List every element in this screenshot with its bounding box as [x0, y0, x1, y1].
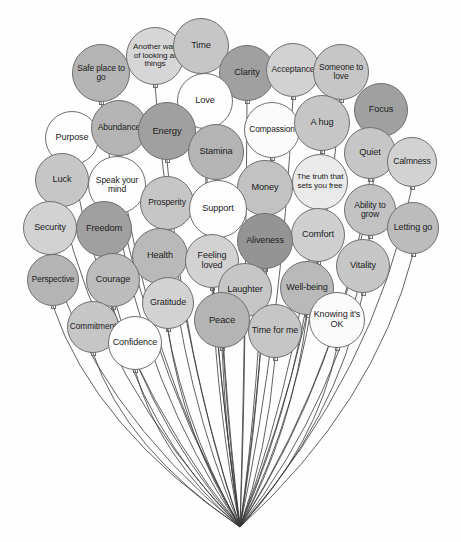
- balloon-freedom[interactable]: Freedom: [76, 201, 132, 257]
- balloon-compassion[interactable]: Compassion: [244, 102, 300, 158]
- balloon-label: Luck: [50, 175, 73, 185]
- balloon-label: Gratitude: [148, 298, 188, 308]
- balloon-aliveness[interactable]: Aliveness: [237, 213, 293, 269]
- balloon-label: Focus: [367, 105, 396, 115]
- balloon-label: Prosperity: [146, 198, 188, 207]
- balloon-vitality[interactable]: Vitality: [336, 239, 390, 293]
- balloon-stamina[interactable]: Stamina: [188, 124, 244, 180]
- balloon-label: Speak your mind: [89, 175, 145, 194]
- balloon-a-hug[interactable]: A hug: [294, 95, 350, 151]
- balloon-label: Compassion: [247, 125, 297, 134]
- balloon-label: Peace: [207, 314, 237, 324]
- balloon-label: Love: [193, 96, 217, 106]
- balloon-label: Support: [200, 204, 235, 214]
- balloon-time-for-me[interactable]: Time for me: [248, 304, 302, 358]
- balloon-label: Confidence: [111, 338, 160, 348]
- balloon-label: A hug: [308, 118, 335, 128]
- balloon-label: Health: [145, 251, 175, 261]
- balloon-label: Knowing it's OK: [310, 310, 364, 329]
- balloon-label: Acceptance: [270, 65, 317, 74]
- balloon-comfort[interactable]: Comfort: [291, 208, 345, 262]
- balloon-label: Someone to love: [314, 62, 368, 80]
- balloon-label: Calmness: [391, 157, 432, 166]
- balloon-prosperity[interactable]: Prosperity: [140, 176, 194, 230]
- balloon-label: Energy: [150, 125, 183, 135]
- balloon-label: Perspective: [30, 275, 77, 284]
- balloon-the-truth[interactable]: The truth that sets you free: [292, 154, 348, 210]
- balloon-confidence[interactable]: Confidence: [108, 316, 162, 370]
- balloon-label: Money: [249, 183, 280, 193]
- balloon-peace[interactable]: Peace: [194, 292, 250, 348]
- balloon-label: Ability to grow: [345, 200, 395, 219]
- balloon-luck[interactable]: Luck: [35, 153, 89, 207]
- balloon-label: Time for me: [250, 326, 301, 336]
- balloon-label: Aliveness: [244, 236, 286, 246]
- balloon-acceptance[interactable]: Acceptance: [266, 43, 320, 97]
- balloon-label: Purpose: [54, 133, 91, 143]
- balloon-diagram-canvas: Safe place to goAnother way of looking a…: [0, 0, 461, 542]
- balloon-knowing-its-ok[interactable]: Knowing it's OK: [309, 292, 365, 348]
- balloon-label: Vitality: [348, 261, 378, 271]
- balloon-label: Time: [189, 41, 213, 51]
- balloon-security[interactable]: Security: [23, 201, 77, 255]
- balloon-letting-go[interactable]: Letting go: [387, 202, 439, 254]
- balloon-label: Freedom: [84, 224, 124, 234]
- balloon-label: Courage: [94, 275, 133, 285]
- balloon-label: Quiet: [357, 148, 382, 158]
- balloon-health[interactable]: Health: [132, 228, 188, 284]
- balloon-label: Comfort: [300, 230, 336, 240]
- balloon-label: The truth that sets you free: [293, 173, 347, 190]
- balloon-perspective[interactable]: Perspective: [27, 254, 79, 306]
- balloon-label: Stamina: [197, 147, 234, 157]
- balloon-label: Letting go: [392, 223, 435, 233]
- balloon-label: Clarity: [232, 68, 261, 78]
- balloon-label: Security: [32, 223, 68, 233]
- balloon-label: Safe place to go: [73, 63, 129, 81]
- balloon-label: Abundance: [96, 123, 143, 132]
- balloon-courage[interactable]: Courage: [86, 253, 140, 307]
- balloon-label: Well-being: [284, 283, 329, 293]
- balloon-safe-place-to-go[interactable]: Safe place to go: [72, 44, 130, 102]
- balloon-calmness[interactable]: Calmness: [387, 137, 437, 187]
